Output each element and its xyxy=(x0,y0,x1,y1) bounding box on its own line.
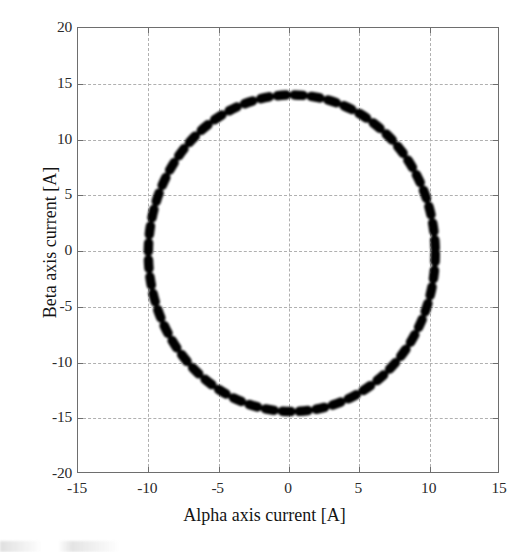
grid-line-vertical xyxy=(359,28,360,472)
y-tick-mark xyxy=(493,418,498,419)
x-tick-label: 15 xyxy=(491,479,506,497)
grid-line-vertical xyxy=(289,28,290,472)
y-tick-mark xyxy=(78,307,83,308)
grid-line-vertical xyxy=(430,28,431,472)
x-tick-label: 0 xyxy=(284,479,292,497)
y-tick-mark xyxy=(78,84,83,85)
x-tick-mark xyxy=(430,467,431,472)
grid-line-horizontal xyxy=(78,251,498,252)
x-tick-label: 10 xyxy=(421,479,436,497)
x-tick-mark xyxy=(359,28,360,33)
grid-layer xyxy=(78,28,498,472)
grid-line-horizontal xyxy=(78,363,498,364)
x-tick-mark xyxy=(430,28,431,33)
y-tick-label: 20 xyxy=(26,18,72,36)
x-tick-mark xyxy=(219,467,220,472)
y-tick-label: -15 xyxy=(26,408,72,426)
y-tick-label: -20 xyxy=(26,464,72,482)
x-tick-label: -10 xyxy=(137,479,157,497)
y-tick-mark xyxy=(78,195,83,196)
x-tick-mark xyxy=(359,467,360,472)
x-tick-mark xyxy=(148,467,149,472)
grid-line-horizontal xyxy=(78,307,498,308)
grid-line-horizontal xyxy=(78,140,498,141)
chart-figure: 20151050-5-10-15-20 -15-10-5051015 Alpha… xyxy=(0,0,529,552)
current-locus-trace xyxy=(78,28,498,472)
scan-artifact xyxy=(0,541,529,552)
series-layer xyxy=(78,28,498,472)
grid-line-vertical xyxy=(219,28,220,472)
y-tick-mark xyxy=(493,84,498,85)
grid-line-horizontal xyxy=(78,418,498,419)
y-tick-mark xyxy=(493,140,498,141)
y-tick-label: 15 xyxy=(26,74,72,92)
y-axis-title: Beta axis current [A] xyxy=(40,93,61,393)
y-tick-mark xyxy=(493,307,498,308)
grid-line-horizontal xyxy=(78,195,498,196)
x-tick-mark xyxy=(289,28,290,33)
y-tick-mark xyxy=(78,363,83,364)
x-tick-mark xyxy=(148,28,149,33)
grid-line-vertical xyxy=(148,28,149,472)
y-tick-mark xyxy=(78,140,83,141)
x-tick-label: 5 xyxy=(355,479,363,497)
y-tick-mark xyxy=(493,195,498,196)
locus-dashed-circle xyxy=(148,95,435,412)
y-tick-mark xyxy=(493,363,498,364)
x-tick-label: -15 xyxy=(67,479,87,497)
grid-line-horizontal xyxy=(78,84,498,85)
y-tick-mark xyxy=(78,418,83,419)
y-tick-mark xyxy=(493,251,498,252)
plot-area xyxy=(77,27,499,473)
x-tick-mark xyxy=(219,28,220,33)
y-tick-mark xyxy=(78,251,83,252)
x-axis-title: Alpha axis current [A] xyxy=(0,505,529,526)
x-tick-label: -5 xyxy=(211,479,224,497)
x-tick-mark xyxy=(289,467,290,472)
